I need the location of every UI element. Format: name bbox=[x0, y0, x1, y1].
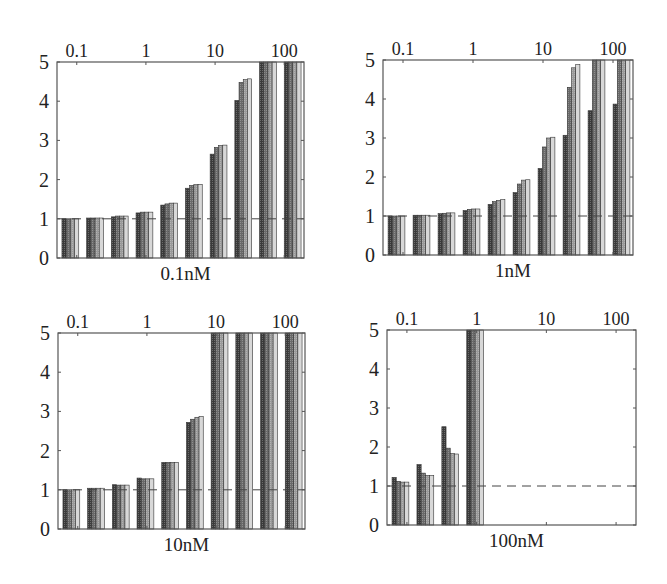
y-tick-label: 1 bbox=[39, 208, 49, 230]
bar bbox=[174, 462, 178, 529]
bar bbox=[293, 62, 297, 258]
bar-group bbox=[260, 62, 277, 258]
panel-10nM: 0123450.111010010nM bbox=[40, 312, 305, 555]
y-tick-label: 2 bbox=[365, 166, 375, 188]
bar bbox=[572, 68, 576, 255]
panel-label: 0.1nM bbox=[160, 263, 210, 284]
y-tick-label: 2 bbox=[39, 169, 49, 191]
y-tick-label: 1 bbox=[365, 205, 375, 227]
y-tick-label: 0 bbox=[40, 518, 50, 540]
bar-group bbox=[442, 427, 459, 525]
bar-group bbox=[413, 215, 430, 255]
bar bbox=[492, 202, 496, 255]
bar bbox=[137, 478, 141, 529]
bar bbox=[425, 475, 429, 525]
bar bbox=[513, 193, 517, 255]
top-tick-label: 0.1 bbox=[66, 41, 89, 61]
bar bbox=[446, 448, 450, 525]
bar bbox=[567, 87, 571, 255]
panel-1nM: 0123450.11101001nM bbox=[365, 39, 633, 281]
bar-group bbox=[513, 180, 530, 255]
bar-group bbox=[438, 213, 455, 255]
bar-group bbox=[62, 219, 79, 258]
bar bbox=[121, 485, 125, 529]
bar bbox=[463, 211, 467, 255]
bar-group bbox=[210, 145, 227, 258]
bar bbox=[450, 454, 454, 525]
top-tick-label: 10 bbox=[534, 39, 552, 59]
bar bbox=[438, 214, 442, 255]
bar bbox=[191, 419, 195, 529]
bar bbox=[613, 104, 617, 255]
bar bbox=[576, 65, 580, 255]
bar bbox=[220, 333, 224, 529]
bar bbox=[75, 219, 79, 258]
bar bbox=[194, 185, 198, 258]
y-tick-label: 4 bbox=[365, 88, 375, 110]
bar-group bbox=[137, 478, 154, 529]
bar-group bbox=[417, 465, 434, 525]
bar bbox=[162, 462, 166, 529]
bar bbox=[417, 215, 421, 255]
top-tick-label: 1 bbox=[141, 41, 150, 61]
bar-group bbox=[112, 485, 129, 529]
bar bbox=[526, 180, 530, 255]
bar bbox=[617, 60, 621, 255]
bar bbox=[235, 100, 239, 258]
panel-0.1nM: 0123450.11101000.1nM bbox=[39, 41, 304, 284]
bar bbox=[190, 185, 194, 258]
bar bbox=[426, 215, 430, 255]
bar bbox=[405, 482, 409, 525]
bar bbox=[141, 479, 145, 529]
panel-label: 100nM bbox=[489, 530, 544, 551]
bar-group bbox=[538, 137, 555, 255]
panel-100nM: 0123450.1110100100nM bbox=[369, 309, 636, 551]
bar bbox=[136, 213, 140, 258]
bar bbox=[397, 216, 401, 255]
bar bbox=[497, 200, 501, 255]
bar bbox=[96, 488, 100, 529]
bar bbox=[71, 490, 75, 529]
bar-group bbox=[588, 60, 605, 255]
top-tick-label: 10 bbox=[207, 312, 225, 332]
bar-group bbox=[392, 477, 409, 525]
bar bbox=[400, 482, 404, 525]
bar bbox=[401, 216, 405, 255]
bar-group bbox=[162, 462, 179, 529]
bar-group bbox=[563, 65, 580, 255]
bar bbox=[244, 333, 248, 529]
bar bbox=[169, 203, 173, 258]
bar bbox=[268, 62, 272, 258]
bar bbox=[166, 462, 170, 529]
bar bbox=[388, 216, 392, 255]
bar bbox=[454, 454, 458, 525]
bar bbox=[421, 473, 425, 525]
bar bbox=[224, 333, 228, 529]
panel-label: 10nM bbox=[164, 534, 210, 555]
bar bbox=[284, 62, 288, 258]
bar bbox=[547, 138, 551, 255]
bar-group bbox=[467, 330, 484, 525]
bar bbox=[297, 62, 301, 258]
bar bbox=[210, 154, 214, 258]
bar bbox=[430, 475, 434, 525]
bar bbox=[289, 333, 293, 529]
bar-group bbox=[236, 333, 253, 529]
bar bbox=[522, 180, 526, 255]
bar-group bbox=[284, 62, 301, 258]
bar bbox=[199, 416, 203, 529]
y-tick-label: 1 bbox=[369, 475, 379, 497]
bar bbox=[597, 60, 601, 255]
bar bbox=[447, 213, 451, 255]
y-tick-label: 0 bbox=[39, 247, 49, 269]
bar bbox=[95, 218, 99, 258]
top-tick-label: 100 bbox=[272, 312, 299, 332]
bar bbox=[467, 330, 471, 525]
bar bbox=[223, 145, 227, 258]
bar bbox=[285, 333, 289, 529]
bar bbox=[92, 488, 96, 529]
y-tick-label: 2 bbox=[369, 436, 379, 458]
bar bbox=[198, 184, 202, 258]
bar bbox=[214, 147, 218, 258]
panel-label: 1nM bbox=[495, 260, 531, 281]
